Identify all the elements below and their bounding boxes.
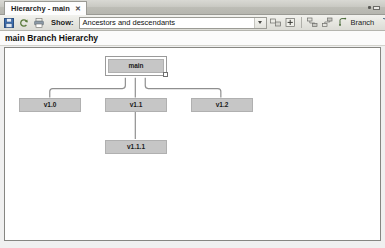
tab-strip: Hierarchy - main ✕ <box>0 0 385 15</box>
branch-icon <box>338 17 347 28</box>
show-filter-value: Ancestors and descendants <box>83 19 176 27</box>
show-label: Show: <box>51 19 74 27</box>
diagram-node-v1-1[interactable]: v1.1 <box>105 98 167 112</box>
expand-all-icon[interactable] <box>269 16 282 29</box>
connector-lines <box>5 48 380 240</box>
node-label: v1.1.1 <box>127 144 145 151</box>
chevron-down-icon[interactable] <box>254 18 266 28</box>
close-icon[interactable]: ✕ <box>75 5 81 12</box>
show-relationship-icon[interactable] <box>306 16 319 29</box>
chevron-icon <box>368 6 371 9</box>
diagram-node-v1-0[interactable]: v1.0 <box>19 98 81 112</box>
page-title: main Branch Hierarchy <box>5 34 98 43</box>
diagram-node-v1-2[interactable]: v1.2 <box>191 98 253 112</box>
resize-handle[interactable] <box>163 72 168 77</box>
toolbar-separator <box>301 17 302 28</box>
show-filter-select[interactable]: Ancestors and descendants <box>79 17 267 29</box>
diagram-node-main[interactable]: main <box>105 56 167 76</box>
hide-relationship-icon[interactable] <box>321 16 334 29</box>
window-list-icon <box>373 6 380 10</box>
collapse-all-icon[interactable] <box>284 16 297 29</box>
toolbar: Show: Ancestors and descendants <box>0 15 385 31</box>
refresh-icon[interactable] <box>17 16 30 29</box>
diagram-node-v1-1-1[interactable]: v1.1.1 <box>105 140 167 154</box>
branch-button[interactable]: Branch <box>336 16 379 29</box>
node-label: main <box>128 63 143 70</box>
node-label: v1.0 <box>44 102 57 109</box>
merge-button[interactable]: Merge <box>380 16 385 29</box>
branch-hierarchy-window: Hierarchy - main ✕ <box>0 0 385 248</box>
tab-hierarchy-main[interactable]: Hierarchy - main ✕ <box>4 1 87 15</box>
node-label: v1.2 <box>216 102 229 109</box>
header-band: main Branch Hierarchy <box>0 31 385 46</box>
node-label: v1.1 <box>130 102 143 109</box>
save-icon[interactable] <box>2 16 15 29</box>
tab-overflow-control[interactable] <box>366 3 382 12</box>
print-icon[interactable] <box>32 16 45 29</box>
branch-label: Branch <box>349 19 377 27</box>
hierarchy-canvas[interactable]: main v1.0 v1.1 v1.2 v1.1.1 <box>4 47 381 241</box>
tab-label: Hierarchy - main <box>11 5 70 13</box>
